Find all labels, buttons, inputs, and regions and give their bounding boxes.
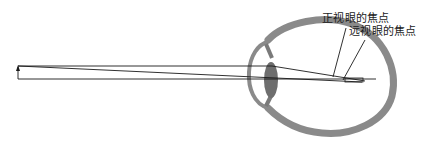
hyperopic-focus-leader [343, 40, 365, 80]
crystalline-lens [264, 62, 278, 98]
normal-eye-focus-label: 正视眼的焦点 [322, 13, 390, 25]
normal-focus-leader [333, 28, 346, 77]
hyperopic-eye-focus-label: 远视眼的焦点 [349, 26, 417, 38]
chief-ray [18, 66, 362, 82]
iris-top [266, 44, 272, 58]
light-rays [16, 28, 376, 82]
